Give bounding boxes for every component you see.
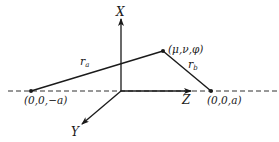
right-focus-point [209,89,213,93]
general-point [161,49,165,53]
r-a-label: ra [80,55,89,69]
left-focus-point [29,89,33,93]
prolate-spheroidal-coordinates-diagram: X Y Z (0,0,−a) (0,0,a) (μ,ν,φ) ra rb [0,0,279,142]
r-b-label: rb [188,58,198,72]
right-focus-label: (0,0,a) [207,94,242,106]
y-axis-label: Y [71,125,80,139]
x-axis-label: X [115,5,125,19]
general-point-label: (μ,ν,φ) [168,43,203,55]
y-axis-arrow [82,91,121,124]
r-b-segment [163,51,211,91]
r-b-subscript: b [193,64,198,72]
left-focus-label: (0,0,−a) [24,94,67,106]
z-axis-label: Z [181,93,191,107]
r-a-segment [31,51,163,91]
r-a-subscript: a [85,61,89,69]
